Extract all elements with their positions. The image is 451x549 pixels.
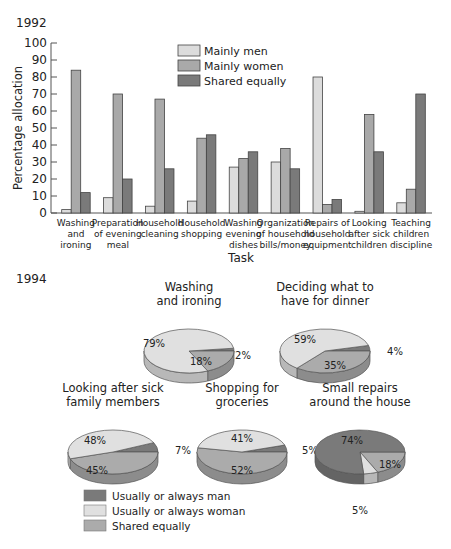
y-tick-label: 20	[32, 172, 47, 186]
x-tick-label: ironing	[60, 240, 91, 250]
bar-group	[271, 148, 300, 213]
bar	[145, 206, 155, 213]
pie-title: Shopping for	[205, 381, 279, 395]
legend-label: Mainly women	[204, 60, 284, 73]
y-tick-label: 30	[32, 155, 47, 169]
legend-label: Shared equally	[204, 75, 287, 88]
legend-swatch	[178, 45, 200, 56]
bar	[229, 167, 239, 213]
x-tick-label: discipline	[390, 240, 433, 250]
bar-group	[397, 94, 426, 213]
pie-chart: Washingand ironing79%18%2%	[143, 280, 251, 383]
bar	[104, 198, 114, 213]
bar	[374, 152, 384, 213]
bar	[113, 94, 123, 213]
bar	[81, 193, 91, 213]
x-tick-label: Household	[136, 218, 184, 228]
legend-label: Mainly men	[204, 45, 268, 58]
pie-chart: Small repairsaround the house74%18%5%	[309, 381, 410, 516]
x-tick-label: household	[304, 229, 351, 239]
bar-group	[104, 94, 133, 213]
x-tick-label: Repairs of	[305, 218, 351, 228]
pie-slice-label: 79%	[143, 338, 165, 349]
bar	[248, 152, 258, 213]
y-axis-label: Percentage allocation	[11, 66, 25, 190]
x-tick-label: after sick	[348, 229, 390, 239]
pie-slice-label: 59%	[294, 334, 316, 345]
pie-title: and ironing	[156, 294, 221, 308]
pie-slice-label: 4%	[387, 346, 403, 357]
pie-slice-label: 52%	[231, 465, 253, 476]
pie-slice-label: 18%	[379, 459, 401, 470]
bar	[416, 94, 426, 213]
legend-swatch	[84, 490, 106, 501]
y-tick-label: 10	[32, 189, 47, 203]
bar	[364, 114, 374, 213]
legend-label: Shared equally	[112, 520, 191, 532]
bar	[239, 159, 249, 213]
x-tick-label: Teaching	[390, 218, 431, 228]
bar	[313, 77, 323, 213]
pie-charts: Washingand ironing79%18%2%Deciding what …	[0, 269, 451, 549]
x-tick-label: Looking	[352, 218, 387, 228]
bar	[164, 169, 174, 213]
bar-group	[313, 77, 342, 213]
bar	[123, 179, 133, 213]
pie-title: around the house	[309, 395, 410, 409]
x-tick-label: cleaning	[141, 229, 179, 239]
pie-title: Small repairs	[322, 381, 397, 395]
y-tick-label: 80	[32, 70, 47, 84]
x-tick-label: Household	[178, 218, 226, 228]
y-tick-label: 90	[32, 53, 47, 67]
bar	[155, 99, 165, 213]
pie-slice-label: 2%	[235, 350, 251, 361]
y-tick-label: 60	[32, 104, 47, 118]
pie-slice-label: 41%	[231, 433, 253, 444]
pie-title: Washing	[165, 280, 214, 294]
x-tick-label: dishes	[229, 240, 258, 250]
x-tick-label: meal	[107, 240, 129, 250]
legend-label: Usually or always woman	[112, 505, 245, 517]
bar-chart: 0102030405060708090100Percentage allocat…	[0, 0, 451, 270]
pie-chart: Looking after sickfamily members48%45%7%	[62, 381, 191, 484]
x-tick-label: children	[351, 240, 387, 250]
bar	[62, 210, 72, 213]
x-tick-label: of evening	[94, 229, 142, 239]
bar-group	[229, 152, 258, 213]
bar	[206, 135, 216, 213]
x-tick-label: equipment	[303, 240, 352, 250]
pie-slice-label: 7%	[175, 445, 191, 456]
bar-group	[62, 70, 91, 213]
x-tick-label: Washing	[57, 218, 95, 228]
pie-slice-label: 48%	[84, 435, 106, 446]
legend-swatch	[178, 75, 200, 86]
pie-slice-label: 74%	[341, 435, 363, 446]
y-tick-label: 100	[24, 36, 47, 50]
bar	[323, 205, 333, 214]
bar-group	[187, 135, 216, 213]
y-tick-label: 0	[39, 206, 47, 220]
pie-title: Looking after sick	[62, 381, 164, 395]
bar-group	[355, 114, 384, 213]
x-axis-label: Task	[227, 251, 254, 265]
legend-label: Usually or always man	[112, 490, 230, 502]
bar	[187, 201, 197, 213]
y-tick-label: 50	[32, 121, 47, 135]
pie-slice-label: 45%	[86, 465, 108, 476]
pie-slice-label: 18%	[190, 356, 212, 367]
bar	[397, 203, 407, 213]
pie-chart: Deciding what tohave for dinner59%35%4%	[276, 280, 403, 383]
y-tick-label: 70	[32, 87, 47, 101]
pie-title: Deciding what to	[276, 280, 374, 294]
bar	[281, 148, 291, 213]
bar	[332, 199, 342, 213]
bar	[71, 70, 81, 213]
x-tick-label: children	[393, 229, 429, 239]
pie-slice-label: 5%	[352, 505, 368, 516]
pie-title: groceries	[215, 395, 268, 409]
bar	[406, 189, 416, 213]
pie-slice-label: 35%	[324, 360, 346, 371]
pie-chart: Shopping forgroceries41%52%5%	[197, 381, 318, 484]
bar	[271, 162, 281, 213]
x-tick-label: shopping	[181, 229, 222, 239]
